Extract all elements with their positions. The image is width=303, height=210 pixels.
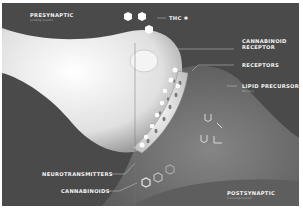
neurotransmitters-label: NEUROTRANSMITTERS: [42, 171, 113, 177]
presynaptic-label: PRESYNAPTIC: [30, 12, 74, 18]
cannabinoid-receptor-label: CANNABINOID RECEPTOR: [242, 38, 287, 50]
postsynaptic-sublabel: receiving neuron: [227, 197, 252, 200]
thc-label: THC ✱: [169, 15, 188, 21]
vesicle-bump: [130, 50, 158, 72]
thc-label-text: THC: [169, 15, 182, 21]
lipid-precursors-label: LIPID PRECURSORS: [242, 83, 299, 89]
postsynaptic-label: POSTSYNAPTIC: [227, 190, 275, 196]
synapse-diagram: PRESYNAPTIC sending neuron THC ✱ CANNABI…: [2, 3, 299, 206]
cannabinoid-receptor-line2: RECEPTOR: [242, 44, 275, 50]
cannabinoids-label: CANNABINOIDS: [61, 188, 110, 194]
lipid-precursors-sublabel: fat cells: [242, 90, 254, 93]
leaf-icon: ✱: [184, 15, 189, 21]
presynaptic-sublabel: sending neuron: [30, 19, 53, 22]
receptors-label: RECEPTORS: [242, 62, 279, 68]
